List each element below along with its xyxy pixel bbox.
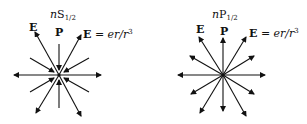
p-field-equation: E = er/r3 — [249, 28, 299, 39]
s-label-p: P — [55, 27, 63, 38]
s-center-dot — [57, 73, 60, 76]
p-state-field — [178, 37, 265, 116]
p-state-title: nP1/2 — [212, 9, 238, 22]
s-state-field — [14, 32, 101, 116]
p-label-e: E — [196, 24, 204, 35]
s-label-e: E — [29, 22, 37, 33]
s-field-equation: E = er/r3 — [83, 29, 133, 40]
p-label-p: P — [220, 26, 228, 37]
p-center-dot — [221, 73, 224, 76]
s-state-title: nS1/2 — [50, 9, 76, 22]
field-diagram — [0, 0, 307, 124]
